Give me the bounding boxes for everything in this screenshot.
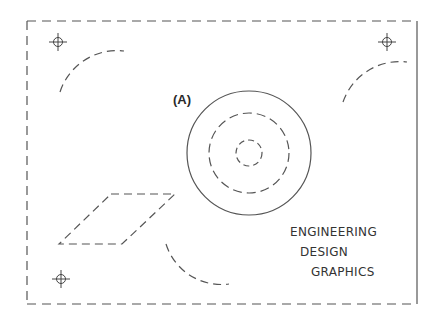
crosshair-icon (378, 33, 396, 51)
engineering-drawing: (A) ENGINEERING DESIGN GRAPHICS (0, 0, 438, 316)
crosshair-icon (49, 33, 67, 51)
outer-circle (187, 91, 311, 215)
dashed-arc-top-left (60, 51, 124, 92)
dashed-parallelogram (59, 194, 175, 244)
dashed-arc-top-right (343, 62, 407, 102)
middle-dashed-circle (209, 113, 289, 193)
crosshair-icon (52, 270, 70, 288)
title-line-2: DESIGN (300, 245, 348, 259)
title-line-1: ENGINEERING (290, 225, 377, 239)
inner-dashed-circle (236, 140, 262, 166)
part-label: (A) (173, 92, 191, 107)
dashed-arc-bottom (166, 244, 229, 285)
title-line-3: GRAPHICS (311, 265, 375, 279)
drawing-frame (27, 21, 417, 304)
